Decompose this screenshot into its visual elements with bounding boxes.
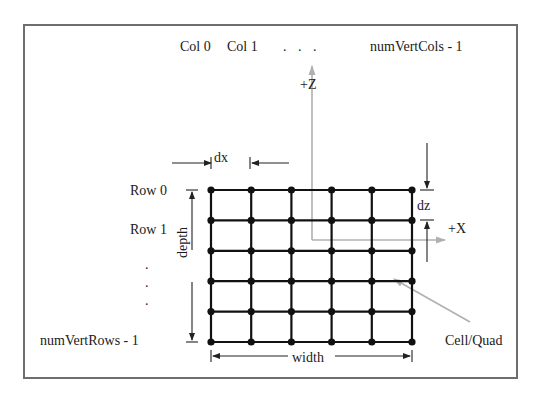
grid-vertex [248, 278, 255, 285]
cell-quad-label: Cell/Quad [445, 334, 503, 348]
dx-label: dx [214, 151, 228, 165]
depth-label: depth [176, 227, 190, 258]
dz-label: dz [417, 199, 430, 213]
grid-vertex [408, 338, 415, 345]
row-0-label: Row 0 [130, 184, 167, 198]
row-1-label: Row 1 [130, 223, 167, 237]
last-row-label: numVertRows - 1 [40, 334, 139, 348]
grid-vertex [248, 186, 255, 193]
row-ellipsis-3: . [145, 294, 149, 308]
row-ellipsis-1: . [145, 258, 149, 272]
grid-vertex [328, 217, 335, 224]
grid-vertex [328, 278, 335, 285]
grid-vertex [207, 247, 214, 254]
grid-vertex [408, 278, 415, 285]
grid-vertex [288, 338, 295, 345]
grid-vertex [368, 186, 375, 193]
grid-vertex [288, 278, 295, 285]
grid-vertex [207, 338, 214, 345]
grid-vertex [248, 217, 255, 224]
grid-vertex [248, 247, 255, 254]
grid-vertex [408, 217, 415, 224]
grid-vertex [207, 278, 214, 285]
cell-callout-pointer [394, 279, 470, 322]
grid-vertex [288, 308, 295, 315]
grid-vertex [207, 217, 214, 224]
grid-vertex [207, 308, 214, 315]
last-col-label: numVertCols - 1 [370, 40, 463, 54]
grid-vertex [368, 278, 375, 285]
col-0-label: Col 0 [180, 40, 211, 54]
grid-vertex [328, 308, 335, 315]
grid-vertex [408, 186, 415, 193]
grid-vertex [288, 217, 295, 224]
grid-vertex [328, 247, 335, 254]
grid-vertex [207, 186, 214, 193]
width-label: width [292, 351, 324, 365]
grid-vertex [368, 308, 375, 315]
row-ellipsis-2: . [145, 276, 149, 290]
grid-vertex [288, 186, 295, 193]
z-axis-label: +Z [300, 78, 316, 92]
grid-vertex [328, 186, 335, 193]
axes [312, 66, 470, 322]
grid-vertex [368, 247, 375, 254]
x-axis-label: +X [448, 222, 466, 236]
grid-vertex [328, 338, 335, 345]
grid-vertex [408, 247, 415, 254]
col-ellipsis: . . . [283, 40, 321, 54]
grid-vertex [248, 338, 255, 345]
grid-vertex [368, 338, 375, 345]
grid-vertex [248, 308, 255, 315]
grid-vertex [408, 308, 415, 315]
grid-vertex [368, 217, 375, 224]
grid-vertex [288, 247, 295, 254]
col-1-label: Col 1 [227, 40, 258, 54]
